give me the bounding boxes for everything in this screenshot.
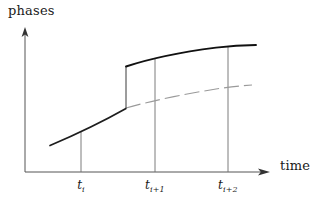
plot-canvas bbox=[0, 0, 332, 212]
tick-label-t-i: ti bbox=[77, 178, 85, 192]
baseline-curve-solid bbox=[50, 109, 126, 146]
tick-sub-1: i+1 bbox=[150, 185, 165, 194]
y-axis bbox=[22, 27, 29, 172]
baseline-curve-dashed bbox=[126, 85, 252, 108]
tick-label-t-i-p-2: ti+2 bbox=[218, 178, 238, 192]
y-axis-label: phases bbox=[8, 3, 55, 18]
tick-sub-0: i bbox=[82, 185, 85, 194]
tick-sub-2: i+2 bbox=[223, 185, 238, 194]
phases-vs-time-figure: phases time ti ti+1 ti+2 bbox=[0, 0, 332, 212]
tick-label-t-i-p-1: ti+1 bbox=[145, 178, 165, 192]
post-jump-curve bbox=[126, 45, 256, 67]
x-axis-label: time bbox=[280, 158, 310, 173]
x-axis bbox=[25, 168, 270, 175]
drop-lines bbox=[81, 47, 228, 172]
